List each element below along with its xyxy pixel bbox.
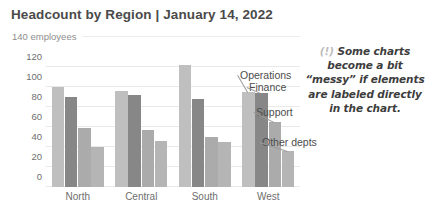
callout-line-1: Some charts (338, 45, 411, 57)
bar-central-operations[interactable] (115, 91, 128, 187)
series-label-operations: Operations (240, 69, 291, 81)
bar-south-other-depts[interactable] (218, 142, 231, 187)
callout-line-3: “messy” if elements (305, 73, 424, 85)
bar-north-finance[interactable] (65, 97, 78, 187)
x-axis-label-west: West (237, 191, 301, 202)
bar-west-other-depts[interactable] (282, 151, 295, 187)
y-axis-tick-100: 100 (2, 71, 42, 82)
y-axis-tick-120: 120 (2, 51, 42, 62)
gridline-120 (46, 66, 300, 67)
x-axis-label-central: Central (110, 191, 174, 202)
x-axis-label-north: North (46, 191, 110, 202)
bar-central-support[interactable] (142, 130, 155, 187)
bar-west-support[interactable] (269, 122, 282, 187)
y-axis-tick-0: 0 (2, 171, 42, 182)
chart-title: Headcount by Region | January 14, 2022 (11, 7, 273, 22)
bar-south-operations[interactable] (179, 65, 192, 187)
chart-container: Headcount by Region | January 14, 2022 1… (0, 0, 436, 217)
y-axis-tick-20: 20 (2, 151, 42, 162)
bar-north-other-depts[interactable] (91, 147, 104, 187)
gridline-140 (82, 36, 300, 37)
callout-line-4: are labeled directly (308, 88, 421, 100)
y-axis-tick-40: 40 (2, 131, 42, 142)
x-axis-label-south: South (173, 191, 237, 202)
y-axis-tick-60: 60 (2, 111, 42, 122)
bar-west-operations[interactable] (242, 92, 255, 187)
chart-subtitle: 140 employees (12, 31, 76, 42)
callout-line-5: in the chart. (329, 102, 401, 114)
bar-south-support[interactable] (205, 137, 218, 187)
callout-line-2: become a bit (327, 59, 402, 71)
warning-marker-icon: (!) (320, 45, 334, 57)
bar-north-operations[interactable] (52, 87, 65, 187)
bar-south-finance[interactable] (192, 99, 205, 187)
bar-north-support[interactable] (78, 128, 91, 187)
bar-central-finance[interactable] (128, 95, 141, 187)
y-axis-tick-80: 80 (2, 91, 42, 102)
bar-central-other-depts[interactable] (155, 141, 168, 187)
callout-note: (!) Some charts become a bit “messy” if … (296, 44, 434, 115)
